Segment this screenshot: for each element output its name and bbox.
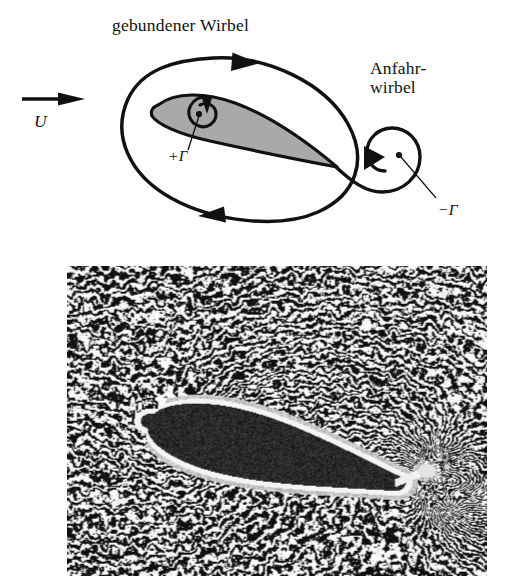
photograph-image xyxy=(67,266,487,576)
bound-circulation-label: +Γ xyxy=(168,148,188,165)
schematic-diagram-panel: gebundener Wirbel Anfahr- wirbel U +Γ −Γ xyxy=(0,0,511,255)
flow-visualization-photograph xyxy=(67,266,487,576)
figure-root: gebundener Wirbel Anfahr- wirbel U +Γ −Γ xyxy=(0,0,511,581)
bound-vortex-title-label: gebundener Wirbel xyxy=(112,16,249,35)
shed-circulation-label: −Γ xyxy=(438,202,458,219)
starting-vortex-symbol-icon xyxy=(336,128,436,198)
diagram-svg xyxy=(0,0,511,255)
freestream-velocity-label: U xyxy=(34,112,47,131)
starting-vortex-title-label: Anfahr- wirbel xyxy=(370,59,426,97)
freestream-arrow-icon xyxy=(22,93,85,106)
